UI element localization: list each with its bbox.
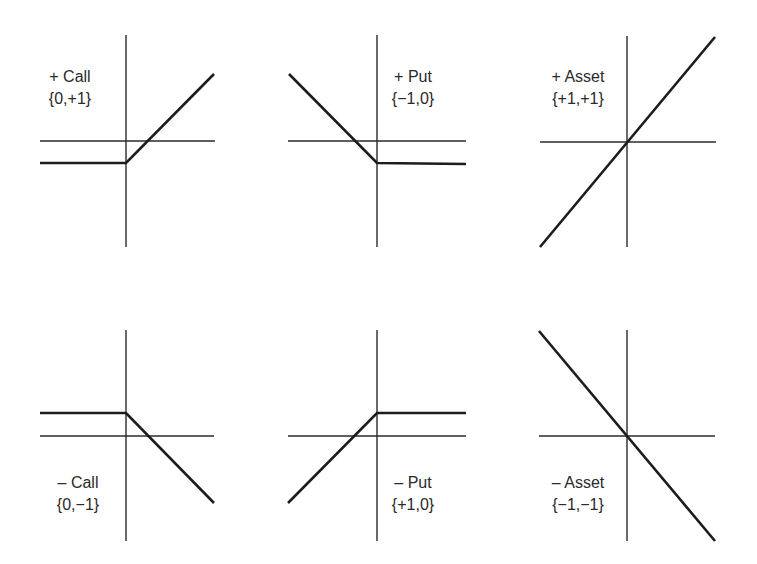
label-short-put: – Put {+1,0} [358,472,468,516]
panel-signature: {0,+1} [15,88,125,110]
label-long-put: + Put {−1,0} [358,66,468,110]
panel-signature: {−1,0} [358,88,468,110]
panel-name: + Put [358,66,468,88]
panel-signature: {+1,+1} [523,88,633,110]
panel-signature: {−1,−1} [523,494,633,516]
label-long-call: + Call {0,+1} [15,66,125,110]
label-short-call: – Call {0,−1} [23,472,133,516]
panel-name: – Put [358,472,468,494]
panel-name: – Call [23,472,133,494]
panel-name: – Asset [523,472,633,494]
panel-signature: {+1,0} [358,494,468,516]
payoff-diagram-grid: + Call {0,+1} + Put {−1,0} + Asset {+1,+… [0,0,757,564]
label-short-asset: – Asset {−1,−1} [523,472,633,516]
panel-signature: {0,−1} [23,494,133,516]
label-long-asset: + Asset {+1,+1} [523,66,633,110]
panel-name: + Call [15,66,125,88]
panel-name: + Asset [523,66,633,88]
